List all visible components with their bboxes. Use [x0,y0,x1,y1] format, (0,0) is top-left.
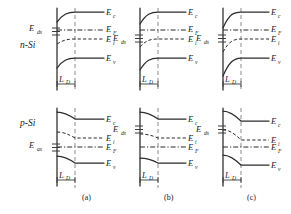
label-Ev-sub: v [113,59,116,65]
label-Ev-sub: v [278,59,281,65]
energy-labels-a-bot: E c E i E F E v [105,114,117,170]
label-Ec: E [270,116,277,126]
label-Ei: E [105,34,112,44]
depletion-length-subscript-c-bot: D [231,175,236,181]
label-Ec: E [270,7,277,17]
label-Ei: E [270,34,277,44]
label-Ei-sub: i [278,141,280,147]
label-Ei: E [187,34,194,44]
label-Ec: E [105,114,112,124]
depletion-length-symbol-b-top: L [141,74,147,84]
depletion-width-c-bot: L D [223,170,241,183]
label-Ei-sub: i [278,40,280,46]
label-Ec-sub: c [113,13,116,19]
valence-band-a-bot [57,156,104,163]
label-Ec: E [187,114,194,124]
depletion-length-symbol-c-bot: L [224,170,230,180]
label-Ev-sub: v [195,164,198,170]
figure-canvas: n-Si E ds L D [0,0,291,214]
depletion-length-symbol: L [58,74,64,84]
label-Ev: E [270,53,277,63]
panel-caption-b: (b) [164,193,174,202]
depletion-length-subscript-b-bot: D [148,175,153,181]
label-Ec: E [105,7,112,17]
surface-state-symbol-c-bot: E [195,124,202,134]
label-EF: E [187,24,194,34]
label-Ev-sub: v [278,166,281,172]
label-EF: E [270,142,277,152]
depletion-length-subscript-c-top: D [231,79,236,85]
label-EF-sub: F [194,148,199,154]
panel-caption-a: (a) [82,193,91,202]
depletion-length-symbol-b-bot: L [141,170,147,180]
panel-c-n-si: E ds L D E c E [195,7,282,92]
depletion-length-symbol-c-top: L [224,74,230,84]
label-Ev: E [187,158,194,168]
depletion-length-subscript: D [65,79,70,85]
energy-labels-c-top: E c E F E i E v [270,7,282,65]
depletion-width-a-bot: L D [57,170,75,183]
surface-state-label-n-si: E ds [28,23,42,35]
surface-states-c-bot [218,126,226,133]
depletion-length-subscript-b-top: D [148,79,153,85]
valence-band-c-bot [223,155,269,165]
label-Ev: E [105,53,112,63]
label-EF: E [105,24,112,34]
surface-state-subscript-b-bot: ds [121,130,126,136]
intrinsic-level-a-bot [57,132,104,138]
energy-labels-c-bot: E c E i E F E v [270,116,282,172]
surface-state-subscript: ds [37,29,42,35]
label-Ei-sub: i [195,139,197,145]
surface-states-a-top [52,28,60,35]
label-EF: E [270,24,277,34]
conduction-band-b-bot [140,112,186,119]
surface-state-symbol-a-bot: E [28,140,35,150]
surface-state-symbol-b-bot: E [112,124,119,134]
surface-state-subscript-c-bot: ds [204,130,209,136]
intrinsic-level-c-top [223,39,269,52]
label-Ev-sub: v [195,59,198,65]
label-Ec-sub: c [195,13,198,19]
intrinsic-level-b-top [140,39,186,47]
valence-band-b-top [140,58,186,70]
surface-state-subscript-b-top: ds [121,39,126,45]
row-n-si: n-Si E ds L D [20,7,282,92]
depletion-width-a-top: L D [57,74,75,87]
surface-state-subscript-a-bot: as [37,146,42,152]
label-EF: E [187,142,194,152]
label-Ev: E [270,160,277,170]
surface-state-subscript-c-top: ds [204,39,209,45]
valence-band-c-top [223,58,269,76]
conduction-band-b-top [140,12,186,24]
label-Ec-sub: c [278,13,281,19]
intrinsic-level-b-bot [140,134,186,138]
energy-labels-b-bot: E c E i E F E v [187,114,199,170]
material-label-n-si: n-Si [20,40,36,50]
label-Ev-sub: v [113,164,116,170]
panel-caption-c: (c) [247,193,256,202]
surface-state-symbol-b-top: E [112,33,119,43]
conduction-band-a-top [57,12,104,22]
label-EF-sub: F [277,148,282,154]
surface-state-label-p-si: E as [28,140,42,152]
label-Ev: E [187,53,194,63]
conduction-band-c-top [223,12,269,28]
panel-b-p-si: E ds L D E c E [112,108,199,188]
valence-band-a-top [57,58,104,68]
surface-states-a-bot [52,144,60,151]
label-EF: E [105,142,112,152]
label-EF-sub: F [277,30,282,36]
panel-a-p-si: L D E c E i E F E v [52,108,117,188]
surface-state-symbol-c-top: E [195,33,202,43]
valence-band-b-bot [140,158,186,163]
band-diagram-figure: n-Si E ds L D [0,0,291,214]
label-Ei-sub: i [113,139,115,145]
material-label-p-si: p-Si [19,118,36,128]
surface-states-b-bot [135,126,143,133]
conduction-band-a-bot [57,112,104,119]
depletion-length-symbol-a-bot: L [58,170,64,180]
surface-states-b-top [135,35,143,42]
label-Ec-sub: c [278,122,281,128]
panel-b-n-si: E ds L D E c E [112,7,199,92]
surface-state-symbol: E [28,23,35,33]
